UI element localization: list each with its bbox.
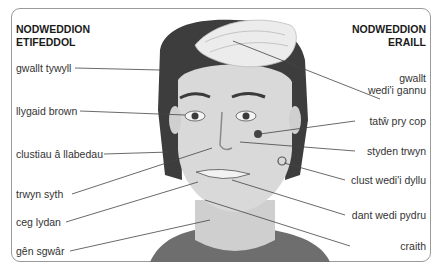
label-lobed-ears: clustiau â llabedau [16, 148, 103, 160]
label-wide-mouth: ceg lydan [16, 216, 61, 228]
label-line: gwallt [368, 72, 426, 84]
label-nose-stud: styden trwyn [367, 145, 426, 157]
label-pierced-ear: clust wedi'i dyllu [351, 174, 426, 186]
label-scar: craith [400, 240, 426, 252]
heading-line: ETIFEDDOL [16, 36, 90, 49]
label-dark-hair: gwallt tywyll [16, 62, 71, 74]
heading-line: ERAILL [352, 36, 426, 49]
heading-inherited: NODWEDDION ETIFEDDOL [16, 23, 90, 48]
label-bleached-hair: gwallt wedi'i gannu [368, 72, 426, 96]
left-ear [169, 106, 181, 134]
heading-line: NODWEDDION [16, 23, 90, 36]
label-square-chin: gên sgwâr [16, 245, 64, 257]
label-brown-eyes: llygaid brown [16, 105, 77, 117]
heading-line: NODWEDDION [352, 23, 426, 36]
label-decayed-tooth: dant wedi pydru [352, 209, 426, 221]
label-line: wedi'i gannu [368, 84, 426, 96]
face [178, 65, 292, 213]
heading-other: NODWEDDION ERAILL [352, 23, 426, 48]
label-straight-nose: trwyn syth [16, 188, 63, 200]
label-spider-tattoo: tatŵ pry cop [369, 115, 426, 127]
